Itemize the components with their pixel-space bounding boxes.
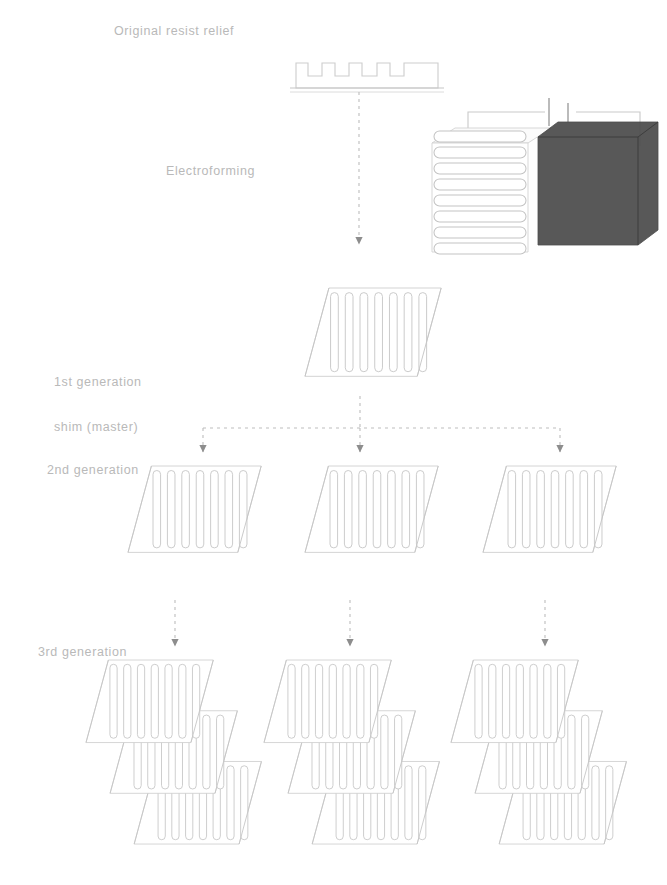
label-generation-1: 1st generation shim (master) (54, 345, 142, 465)
connector-gen2-to-gen3 (175, 600, 545, 646)
label-generation-1-line-2: shim (master) (54, 420, 142, 435)
electroforming-cell-graphic (432, 98, 658, 254)
generation-3-stack (86, 660, 261, 844)
label-generation-3: 3rd generation (38, 645, 127, 660)
generation-1-shim (305, 288, 441, 376)
diagram-page: Original resist relief Electroforming 1s… (0, 0, 667, 885)
label-electroforming: Electroforming (166, 164, 255, 179)
generation-3-stack (451, 660, 626, 844)
generation-3-stack (264, 660, 439, 844)
label-generation-2: 2nd generation (47, 463, 139, 478)
generation-2-shim (483, 466, 616, 552)
connector-gen1-to-gen2 (203, 396, 560, 452)
original-resist-relief-graphic (290, 63, 444, 92)
generation-2-shim (305, 466, 438, 552)
label-generation-1-line-1: 1st generation (54, 375, 142, 390)
generation-2-shim (128, 466, 261, 552)
anode-grooved-plate (432, 128, 551, 254)
cathode-dark-plate (538, 122, 658, 245)
label-original-resist-relief: Original resist relief (114, 24, 234, 39)
